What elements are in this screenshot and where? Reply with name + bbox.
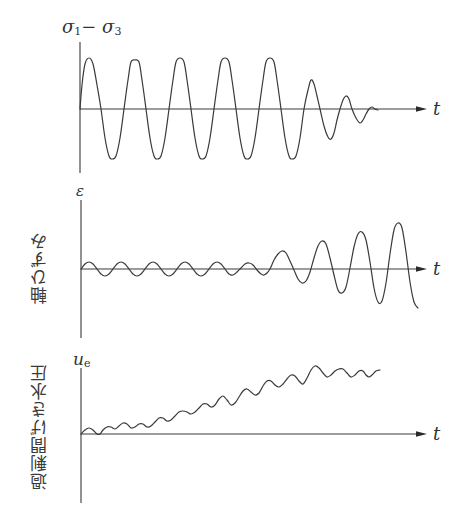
x-axis-label: t [433,258,441,279]
y-axis-label: ue [73,349,90,370]
panel-deviator-stress: σ1− σ3 t [62,16,441,173]
excess-pore-pressure-side-label: 過剰間げき水圧 [26,364,51,490]
arrow-right-icon [416,266,427,272]
x-axis-label: t [433,98,441,119]
axial-strain-curve [81,223,418,308]
excess-pore-pressure-curve [81,366,380,435]
y-axis-label: σ1− σ3 [62,16,121,38]
panel-excess-pore-pressure: ue t [73,349,441,503]
panel-axial-strain: ε t [76,182,441,338]
axial-strain-side-label: 軸ひずみ [26,232,51,304]
y-axis-label: ε [76,182,84,200]
figure-canvas: σ1− σ3 t ε t ue t [0,0,455,526]
arrow-right-icon [416,431,427,437]
x-axis-label: t [433,423,441,444]
arrow-right-icon [416,106,427,112]
